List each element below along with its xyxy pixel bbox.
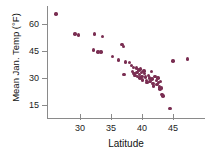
- y-axis-tick: [42, 105, 48, 106]
- x-axis-line: [47, 118, 205, 119]
- data-point: [77, 33, 80, 36]
- y-axis-tick: [42, 51, 48, 52]
- y-axis-line: [47, 6, 48, 119]
- data-point: [161, 94, 164, 97]
- x-axis-tick-label: 35: [99, 124, 123, 133]
- data-point: [159, 80, 162, 83]
- data-point: [111, 55, 114, 58]
- x-axis-tick: [111, 114, 112, 120]
- data-point: [150, 70, 153, 73]
- x-axis-tick-label: 40: [130, 124, 154, 133]
- data-point: [122, 45, 125, 48]
- data-point: [92, 48, 95, 51]
- data-point: [101, 35, 104, 38]
- data-point: [99, 50, 102, 53]
- x-axis-tick: [80, 114, 81, 120]
- data-point: [93, 32, 96, 35]
- plot-area: [47, 6, 205, 118]
- data-point: [160, 86, 163, 89]
- scatter-plot-figure: 15304560 30354045 Mean Jan. Temp (°F) La…: [0, 0, 211, 156]
- y-axis-title: Mean Jan. Temp (°F): [10, 0, 21, 117]
- y-axis-tick: [42, 78, 48, 79]
- data-point: [54, 12, 57, 15]
- data-point: [186, 57, 189, 60]
- x-axis-tick: [173, 114, 174, 120]
- data-point: [124, 60, 127, 63]
- x-axis-tick-label: 30: [68, 124, 92, 133]
- y-axis-tick: [42, 24, 48, 25]
- x-axis-tick: [142, 114, 143, 120]
- x-axis-title: Latitude: [47, 138, 205, 149]
- data-point: [122, 73, 125, 76]
- data-point: [171, 59, 174, 62]
- data-point: [168, 107, 171, 110]
- x-axis-tick-label: 45: [161, 124, 185, 133]
- data-point: [117, 58, 120, 61]
